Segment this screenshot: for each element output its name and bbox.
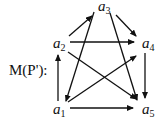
edge-a3-a4 [116, 15, 136, 36]
node-a5: a5 [142, 102, 155, 119]
node-a1: a1 [53, 102, 66, 119]
edge-a2-a5 [68, 52, 136, 99]
diagram-title: M(P'): [9, 62, 48, 79]
node-a2: a2 [53, 36, 66, 53]
node-a3: a3 [98, 0, 111, 16]
edge-a3-a5 [110, 13, 137, 100]
edges-layer [0, 0, 162, 122]
node-a4: a4 [142, 36, 155, 53]
edge-a2-a3 [69, 16, 92, 36]
graph-diagram: M(P'): a3 a2 a4 a1 a5 [0, 0, 162, 122]
